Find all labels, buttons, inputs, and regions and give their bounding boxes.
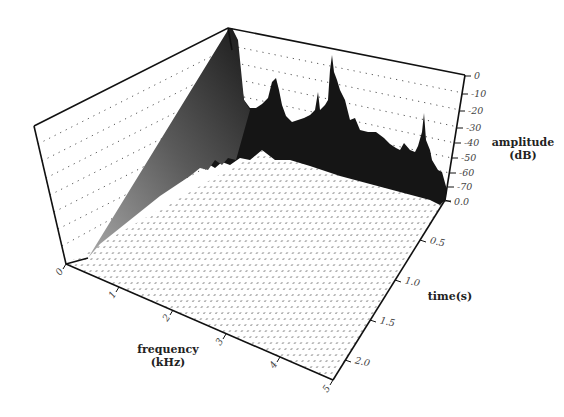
amplitude-tick-6: -60 [459, 167, 474, 178]
amplitude-unit: (dB) [488, 149, 558, 162]
amplitude-axis-title: amplitude (dB) [488, 136, 558, 162]
amplitude-tick-1: -10 [471, 88, 486, 99]
amplitude-tick-2: -20 [468, 105, 483, 116]
amplitude-tick-4: -40 [464, 137, 479, 148]
amplitude-tick-7: -70 [457, 181, 472, 192]
frequency-label: frequency [133, 343, 203, 356]
amplitude-tick-5: -50 [461, 152, 476, 163]
amplitude-tick-3: -30 [466, 122, 481, 133]
amplitude-tick-8: 0.0 [454, 196, 469, 207]
amplitude-label: amplitude [488, 136, 558, 149]
time-axis-title: time(s) [420, 290, 480, 303]
time-label: time(s) [420, 290, 480, 303]
frequency-unit: (kHz) [133, 356, 203, 369]
surface-plot [0, 0, 564, 417]
amplitude-tick-0: 0 [474, 70, 480, 81]
frequency-axis-title: frequency (kHz) [133, 343, 203, 369]
